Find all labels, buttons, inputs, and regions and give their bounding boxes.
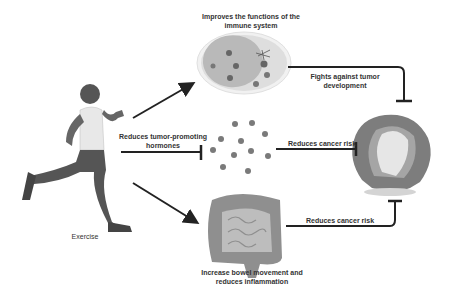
tumor-icon xyxy=(352,115,430,196)
arrow-to-immune xyxy=(133,84,192,118)
diagram-canvas xyxy=(0,0,460,295)
exercise-label: Exercise xyxy=(55,232,115,241)
bowel-label-line2: reduces inflammation xyxy=(190,277,314,286)
reduces-cancer-risk-label-2: Reduces cancer risk xyxy=(300,216,380,225)
immune-label-line1: Improves the functions of the xyxy=(180,12,322,21)
immune-label: Improves the functions of the immune sys… xyxy=(180,12,322,30)
hormones-label-line1: Reduces tumor-promoting xyxy=(118,132,208,141)
immune-label-line2: immune system xyxy=(180,21,322,30)
reduces-cancer-risk-label-1: Reduces cancer risk xyxy=(282,139,362,148)
running-person-icon xyxy=(22,84,132,232)
fights-tumor-line1: Fights against tumor xyxy=(290,72,400,81)
hormones-label: Reduces tumor-promoting hormones xyxy=(118,132,208,150)
hormone-dots-icon xyxy=(210,120,271,174)
bowel-label-line1: Increase bowel movement and xyxy=(190,268,314,277)
bowel-label: Increase bowel movement and reduces infl… xyxy=(190,268,314,286)
fights-tumor-label: Fights against tumor development xyxy=(290,72,400,90)
hormones-label-line2: hormones xyxy=(118,141,208,150)
fights-tumor-line2: development xyxy=(290,81,400,90)
arrow-to-bowel xyxy=(133,183,196,222)
intestine-icon xyxy=(208,194,282,278)
immune-cells-icon xyxy=(197,32,291,94)
